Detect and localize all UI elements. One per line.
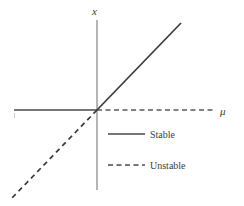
bifurcation-diagram-figure: x μ Stable Unstable bbox=[0, 0, 244, 206]
legend-item-stable-label: Stable bbox=[150, 130, 175, 140]
vertical-axis-label: x bbox=[92, 6, 97, 17]
legend-item-unstable-label: Unstable bbox=[150, 161, 186, 171]
plot-canvas bbox=[0, 0, 244, 206]
horizontal-axis-label: μ bbox=[220, 106, 226, 117]
stable-branch-line bbox=[97, 23, 181, 110]
unstable-branch-line bbox=[12, 110, 97, 198]
